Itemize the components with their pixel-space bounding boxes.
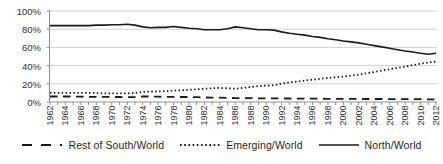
x-axis-label: 1972 xyxy=(122,106,132,126)
y-axis-label: 80% xyxy=(22,24,42,35)
legend-dotted-line-sample xyxy=(179,140,221,150)
x-axis-label: 1974 xyxy=(138,106,148,126)
x-axis-label: 1988 xyxy=(246,106,256,126)
x-axis-label: 1996 xyxy=(307,106,317,126)
chart-legend: Rest of South/WorldEmerging/WorldNorth/W… xyxy=(0,139,443,151)
x-axis-label: 1998 xyxy=(323,106,333,126)
x-axis-label: 1966 xyxy=(76,106,86,126)
x-axis-label: 1984 xyxy=(215,106,225,126)
legend-label: Rest of South/World xyxy=(68,139,164,151)
legend-item-north-world: North/World xyxy=(318,139,422,151)
x-axis-label: 2004 xyxy=(369,106,379,126)
x-axis-label: 1964 xyxy=(60,106,70,126)
legend-label: North/World xyxy=(365,139,422,151)
x-axis-label: 1990 xyxy=(261,106,271,126)
x-axis-label: 2012 xyxy=(431,106,441,126)
legend-solid-line-sample xyxy=(318,140,360,150)
x-axis-label: 2006 xyxy=(385,106,395,126)
x-axis-label: 2000 xyxy=(338,106,348,126)
chart-canvas: 0%20%40%60%80%100%1962196419661968197019… xyxy=(0,0,443,138)
x-axis-label: 2002 xyxy=(354,106,364,126)
x-axis-label: 1962 xyxy=(45,106,55,126)
x-axis-label: 2008 xyxy=(400,106,410,126)
series-line-emerging-world xyxy=(50,62,436,94)
x-axis-label: 1970 xyxy=(107,106,117,126)
legend-dashed-line-sample xyxy=(21,140,63,150)
x-axis-label: 2010 xyxy=(416,106,426,126)
y-axis-label: 40% xyxy=(22,61,42,72)
x-axis-label: 1986 xyxy=(230,106,240,126)
x-axis-label: 1968 xyxy=(91,106,101,126)
y-axis-label: 0% xyxy=(27,97,41,108)
x-axis-label: 1994 xyxy=(292,106,302,126)
x-axis-label: 1980 xyxy=(184,106,194,126)
x-axis-label: 1978 xyxy=(169,106,179,126)
legend-item-emerging-world: Emerging/World xyxy=(179,139,302,151)
y-axis-label: 100% xyxy=(17,6,42,17)
y-axis-label: 20% xyxy=(22,79,42,90)
world-gdp-share-chart: 0%20%40%60%80%100%1962196419661968197019… xyxy=(0,0,443,164)
x-axis-label: 1982 xyxy=(199,106,209,126)
x-axis-label: 1992 xyxy=(277,106,287,126)
y-axis-label: 60% xyxy=(22,42,42,53)
series-line-rest-of-south-world xyxy=(50,97,436,100)
legend-label: Emerging/World xyxy=(226,139,302,151)
legend-item-rest-of-south-world: Rest of South/World xyxy=(21,139,164,151)
x-axis-label: 1976 xyxy=(153,106,163,126)
